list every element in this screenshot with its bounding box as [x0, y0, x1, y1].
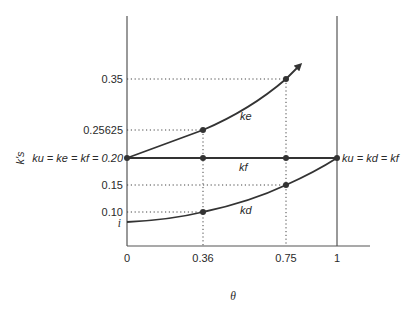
ke-curve	[127, 65, 300, 158]
x-tick-036: 0.36	[192, 252, 213, 264]
kd-label: kd	[240, 204, 253, 216]
point-kd-075	[283, 182, 289, 188]
ke-label: ke	[240, 110, 252, 122]
x-axis-label: θ	[230, 290, 236, 302]
x-tick-0: 0	[124, 252, 130, 264]
point-one-020	[334, 155, 340, 161]
point-ke-036	[200, 127, 206, 133]
y-tick-035: 0.35	[102, 73, 123, 85]
point-kf-036	[200, 155, 206, 161]
kf-label: kf	[239, 161, 249, 173]
x-tick-075: 0.75	[275, 252, 296, 264]
right-annotation: ku = kd = kf	[342, 152, 400, 164]
diagram-canvas: 0.35 0.25625 0.15 0.10 i ku = ke = kf = …	[0, 0, 416, 314]
y-axis-label: k's	[14, 151, 26, 165]
data-points	[124, 76, 340, 215]
y-tick-025625: 0.25625	[83, 124, 123, 136]
point-kf-075	[283, 155, 289, 161]
left-annotation: ku = ke = kf = 0.20	[32, 152, 124, 164]
point-kd-036	[200, 209, 206, 215]
y-tick-015: 0.15	[102, 179, 123, 191]
x-tick-1: 1	[334, 252, 340, 264]
point-ke-075	[283, 76, 289, 82]
point-origin-020	[124, 155, 130, 161]
intercept-label: i	[118, 217, 121, 229]
